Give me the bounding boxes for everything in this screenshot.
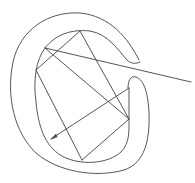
diagram-canvas bbox=[0, 0, 195, 183]
arrowhead-icon bbox=[51, 134, 57, 139]
chord-upper-left-right-lower bbox=[45, 48, 129, 119]
chord-left-bottom bbox=[36, 70, 82, 160]
inner-c-band bbox=[35, 31, 140, 163]
outer-c-band bbox=[11, 13, 150, 174]
long-line-exit bbox=[45, 48, 191, 82]
chord-top-right-lower bbox=[80, 31, 129, 119]
chord-right-lower-bottom bbox=[82, 119, 129, 160]
arrow-shaft bbox=[51, 88, 129, 139]
